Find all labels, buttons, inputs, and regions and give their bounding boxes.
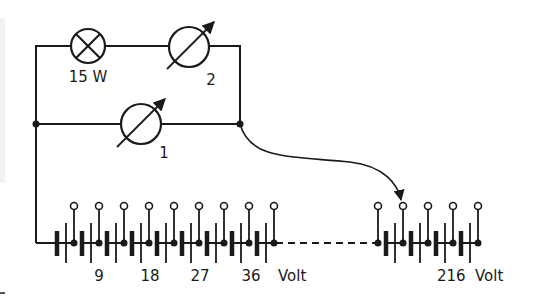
voltage-label-18: 18	[140, 267, 159, 285]
voltage-unit-left: Volt	[278, 267, 306, 285]
left-wire	[36, 46, 71, 243]
tap-terminal-icon	[375, 203, 382, 210]
tap-junction	[450, 240, 457, 247]
voltage-label-36: 36	[241, 267, 260, 285]
tap-terminal-icon	[221, 203, 228, 210]
circuit-svg: 15 W 2 1 9 18 27 36 Volt 216	[0, 0, 536, 304]
circuit-diagram: 15 W 2 1 9 18 27 36 Volt 216	[0, 0, 536, 304]
tap-terminal-icon	[96, 203, 103, 210]
battery-left	[57, 203, 278, 264]
tap-terminal-icon	[271, 203, 278, 210]
tap-junction	[171, 240, 178, 247]
curved-arrow-icon	[240, 124, 401, 200]
voltage-label-9: 9	[94, 267, 104, 285]
tap-junction	[425, 240, 432, 247]
tap-terminal-icon	[475, 203, 482, 210]
tap-terminal-icon	[246, 203, 253, 210]
meter-2-label: 2	[206, 71, 216, 89]
tap-junction	[196, 240, 203, 247]
tap-terminal-icon	[121, 203, 128, 210]
tap-junction	[246, 240, 253, 247]
tap-terminal-icon	[71, 203, 78, 210]
battery-right	[375, 203, 482, 264]
tap-terminal-icon	[400, 203, 407, 210]
edge-strip	[0, 18, 5, 183]
junction-left	[33, 121, 40, 128]
voltage-labels-right: 216 Volt	[437, 267, 503, 285]
voltage-label-216: 216	[437, 267, 466, 285]
tap-terminal-icon	[196, 203, 203, 210]
tap-terminal-icon	[146, 203, 153, 210]
tap-junction	[375, 240, 382, 247]
lamp-label: 15 W	[69, 68, 108, 86]
tap-terminal-icon	[425, 203, 432, 210]
meter-1-label: 1	[159, 144, 169, 162]
tap-junction	[121, 240, 128, 247]
tap-junction	[400, 240, 407, 247]
lamp-icon	[71, 29, 105, 63]
tap-junction	[475, 240, 482, 247]
edge-dash	[0, 292, 5, 294]
tap-junction	[146, 240, 153, 247]
tap-junction	[221, 240, 228, 247]
voltage-label-27: 27	[190, 267, 209, 285]
meter-2-icon	[167, 22, 214, 69]
voltage-labels-left: 9 18 27 36 Volt	[94, 267, 306, 285]
voltage-unit-right: Volt	[475, 267, 503, 285]
tap-junction	[96, 240, 103, 247]
meter-1-icon	[117, 99, 165, 147]
tap-junction	[71, 240, 78, 247]
tap-terminal-icon	[171, 203, 178, 210]
tap-terminal-icon	[450, 203, 457, 210]
